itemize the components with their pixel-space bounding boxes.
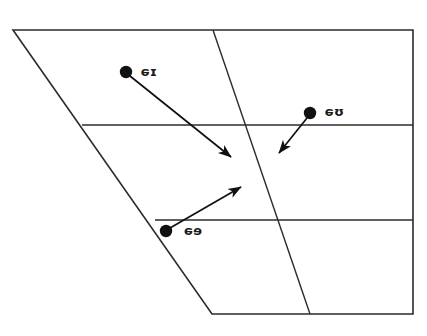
vowel-label-ea: eə bbox=[183, 224, 202, 237]
glide-arrow-ea bbox=[170, 187, 241, 228]
vowel-point-ua bbox=[304, 107, 316, 119]
central-gridline bbox=[213, 30, 310, 314]
vowel-point-ia bbox=[120, 66, 132, 78]
vowel-point-ea bbox=[160, 225, 172, 237]
vowel-chart-canvas bbox=[0, 0, 427, 336]
vowel-label-ia: ɪə bbox=[140, 65, 157, 78]
vowel-quadrilateral-outline bbox=[13, 30, 413, 314]
vowel-quadrilateral-figure: ɪə ʊə eə bbox=[0, 0, 427, 336]
vowel-label-ua: ʊə bbox=[324, 105, 344, 118]
glide-arrow-ia bbox=[130, 76, 231, 157]
glide-arrow-ua bbox=[279, 118, 307, 153]
